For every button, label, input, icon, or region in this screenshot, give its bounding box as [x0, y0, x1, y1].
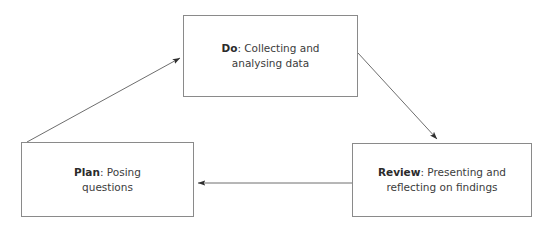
- node-plan-keyword: Plan: [74, 166, 100, 178]
- node-review-keyword: Review: [378, 166, 420, 178]
- node-do[interactable]: Do: Collecting and analysing data: [183, 15, 358, 97]
- node-review[interactable]: Review: Presenting and reflecting on fin…: [352, 143, 532, 217]
- node-review-label: Review: Presenting and reflecting on fin…: [370, 165, 514, 195]
- node-do-label: Do: Collecting and analysing data: [213, 41, 327, 71]
- diagram-canvas: Do: Collecting and analysing data Plan: …: [0, 0, 549, 232]
- edge-plan-to-do: [27, 58, 180, 142]
- node-plan-separator: :: [100, 166, 107, 178]
- node-do-keyword: Do: [221, 42, 237, 54]
- node-plan-label: Plan: Posing questions: [66, 165, 149, 195]
- node-do-description: Collecting and analysing data: [232, 42, 320, 69]
- edge-do-to-review: [358, 53, 437, 139]
- node-plan[interactable]: Plan: Posing questions: [21, 142, 194, 217]
